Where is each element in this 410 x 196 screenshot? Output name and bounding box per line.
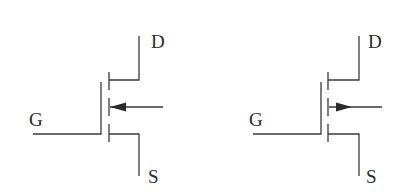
drain-lead-right (328, 36, 359, 80)
gate-lead-right (253, 82, 321, 134)
gate-label-left: G (29, 109, 43, 130)
source-lead-right (328, 134, 359, 176)
arrow-left-icon (110, 103, 126, 112)
mosfet-symbol-left: D G S (29, 31, 165, 187)
source-label-left: S (148, 166, 159, 187)
mosfet-diagram: D G S D G S (0, 0, 410, 196)
gate-lead-left (33, 82, 101, 134)
source-lead-left (109, 134, 139, 176)
gate-label-right: G (249, 109, 263, 130)
drain-label-left: D (151, 31, 165, 52)
drain-lead-left (109, 36, 139, 80)
mosfet-symbol-right: D G S (249, 31, 382, 187)
arrow-right-icon (336, 103, 352, 112)
drain-label-right: D (368, 31, 382, 52)
source-label-right: S (366, 166, 377, 187)
